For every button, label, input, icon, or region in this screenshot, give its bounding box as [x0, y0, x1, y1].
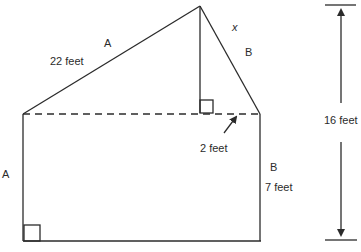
right-slope-letter-label: B [245, 46, 252, 58]
right-slope-variable-label: x [231, 21, 238, 33]
left-side-letter-label: A [2, 168, 10, 180]
left-slope-letter-label: A [104, 37, 112, 49]
total-height-label: 16 feet [324, 114, 358, 126]
right-angle-marker-corner [24, 225, 40, 241]
composite-shape-diagram: A 22 feet x B A B 7 feet 2 feet 16 feet [0, 0, 361, 252]
right-side-letter-label: B [270, 161, 277, 173]
rectangle-body [23, 114, 261, 241]
offset-length-label: 2 feet [200, 142, 228, 154]
offset-pointer-arrow [224, 117, 236, 133]
right-angle-marker-apex [200, 100, 213, 113]
right-roof-slope [200, 6, 260, 114]
right-side-length-label: 7 feet [265, 181, 293, 193]
left-slope-length-label: 22 feet [50, 55, 84, 67]
